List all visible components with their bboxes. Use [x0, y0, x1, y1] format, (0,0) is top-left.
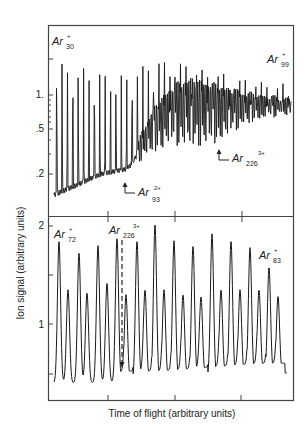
svg-text:72: 72	[68, 236, 76, 243]
top-ytick-05: .5	[36, 123, 45, 134]
bottom-panel-trace	[54, 225, 287, 382]
y-axis-label: Ion signal (arbitrary units)	[15, 207, 26, 320]
annotation-ar83: Ar 83 +	[258, 247, 281, 264]
annotation-ar30: Ar 30 +	[51, 33, 74, 50]
x-axis-label: Time of flight (arbitrary units)	[109, 408, 236, 419]
svg-text:+: +	[274, 247, 278, 253]
svg-text:Ar: Ar	[51, 35, 64, 47]
svg-text:Ar: Ar	[231, 152, 244, 164]
bottom-ytick-1: 1	[38, 319, 44, 330]
bottom-ytick-2: 2	[38, 220, 44, 231]
svg-text:+: +	[69, 226, 73, 232]
svg-text:3+: 3+	[258, 150, 265, 156]
svg-text:3+: 3+	[133, 223, 140, 229]
svg-text:Ar: Ar	[108, 224, 121, 236]
svg-text:+: +	[282, 51, 286, 57]
svg-text:99: 99	[281, 61, 289, 68]
annotation-ar72: Ar 72 +	[53, 226, 76, 243]
svg-text:226: 226	[123, 232, 135, 239]
svg-text:2+: 2+	[154, 185, 161, 191]
top-panel-trace	[54, 62, 291, 196]
annotation-ar93-2plus: Ar 93 2+	[123, 182, 162, 203]
svg-text:83: 83	[273, 257, 281, 264]
svg-text:30: 30	[66, 43, 74, 50]
figure: 1. .5 .2 2 1 Ion signal (arbitrary units…	[0, 0, 308, 436]
svg-text:93: 93	[152, 196, 160, 203]
annotation-ar99: Ar 99 +	[266, 51, 289, 68]
annotation-ar226-3plus-top: Ar 226 3+	[217, 149, 266, 167]
svg-text:+: +	[67, 33, 71, 39]
svg-text:Ar: Ar	[258, 249, 271, 261]
svg-text:Ar: Ar	[137, 186, 150, 198]
svg-text:226: 226	[246, 160, 258, 167]
top-ytick-02: .2	[36, 168, 45, 179]
top-ytick-1: 1.	[36, 89, 44, 100]
svg-text:Ar: Ar	[266, 53, 279, 65]
svg-text:Ar: Ar	[53, 228, 66, 240]
bottom-x-ticks	[108, 395, 241, 400]
